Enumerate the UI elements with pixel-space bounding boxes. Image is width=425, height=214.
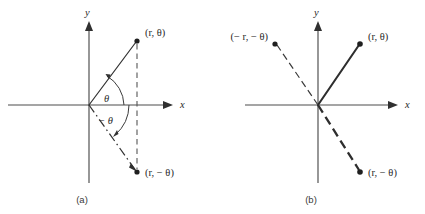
panel-a-y-axis-arrowhead — [85, 21, 93, 31]
panel-a-point-2-dot — [134, 169, 139, 174]
panel-b-point-1-dot — [357, 41, 363, 47]
panel-b-ray-dashed-thin — [277, 45, 318, 105]
panel-a-point-1-dot — [134, 38, 139, 43]
panel-a-y-axis: y — [84, 7, 93, 183]
panel-a-ray-to-point-1: (r, θ) — [89, 27, 166, 105]
panel-a-angle-positive-label: θ — [104, 93, 109, 104]
panel-a-x-axis: x — [8, 99, 185, 110]
panel-b: x y (r, θ) (− r, − θ) — [231, 7, 410, 205]
panel-b-y-axis: y — [313, 7, 322, 183]
panel-b-ray-to-point-3: (r, − θ) — [318, 105, 397, 179]
panel-a-point-2-label: (r, − θ) — [145, 167, 174, 179]
panel-b-y-axis-arrowhead — [314, 21, 322, 31]
panel-a-angle-positive: θ — [104, 74, 124, 105]
panel-b-point-2-label: (− r, − θ) — [231, 31, 269, 43]
panel-b-x-axis-label: x — [404, 99, 410, 110]
panel-a-ray-solid — [89, 42, 136, 105]
panel-a-x-axis-arrowhead — [163, 101, 173, 109]
panel-a-y-axis-label: y — [84, 7, 90, 18]
panel-b-ray-to-point-2: (− r, − θ) — [231, 31, 318, 105]
panel-b-point-3-label: (r, − θ) — [368, 167, 397, 179]
figure-root: x y (r, θ) (r, − θ) — [0, 0, 425, 214]
panel-a-caption: (a) — [76, 194, 88, 205]
panel-b-y-axis-label: y — [313, 7, 319, 18]
panel-a-angle-negative-label: − θ — [98, 115, 113, 126]
panel-b-x-axis: x — [245, 99, 410, 110]
panel-a-angle-negative-arrowhead — [113, 130, 119, 137]
panel-b-point-1-label: (r, θ) — [368, 31, 389, 43]
panel-b-ray-solid — [318, 45, 359, 105]
panel-b-caption: (b) — [305, 194, 317, 205]
polar-symmetry-figure: x y (r, θ) (r, − θ) — [0, 0, 425, 214]
panel-a-angle-negative: − θ — [98, 105, 129, 137]
panel-b-point-2-dot — [272, 41, 277, 46]
panel-a: x y (r, θ) (r, − θ) — [8, 7, 185, 205]
panel-b-ray-to-point-1: (r, θ) — [318, 31, 389, 105]
panel-b-point-3-dot — [357, 169, 363, 175]
panel-b-x-axis-arrowhead — [388, 101, 398, 109]
panel-a-point-1-label: (r, θ) — [145, 27, 166, 39]
panel-b-ray-dashed-thick — [318, 105, 359, 170]
panel-a-x-axis-label: x — [179, 99, 185, 110]
panel-a-angle-positive-arc — [107, 76, 124, 105]
